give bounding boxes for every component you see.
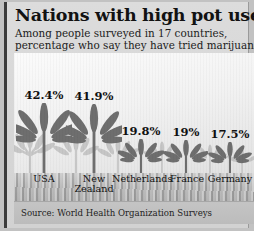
infographic: Nations with high pot use Among people s… (0, 0, 254, 231)
leaf-icon-new-zealand (66, 104, 122, 173)
subtitle-line-1: Among people surveyed in 17 countries, (15, 28, 247, 40)
x-label-new-zealand-line2: Zealand (66, 184, 122, 194)
value-label-new-zealand: 41.9% (66, 89, 122, 103)
value-label-usa: 42.4% (16, 88, 72, 102)
chart-area: 42.4% (14, 53, 254, 203)
x-label-netherlands-text: Netherlands (112, 174, 170, 184)
data-column-netherlands: 19.8% (118, 124, 164, 173)
data-column-france: 19% (164, 125, 208, 173)
value-label-netherlands: 19.8% (118, 124, 164, 138)
subtitle: Among people surveyed in 17 countries, p… (15, 28, 247, 51)
x-label-usa-text: USA (16, 174, 72, 184)
x-label-germany: Germany (206, 174, 254, 184)
header: Nations with high pot use Among people s… (15, 5, 247, 51)
x-label-france: France (166, 174, 208, 184)
data-leaves: 42.4% (14, 53, 254, 173)
data-column-new-zealand: 41.9% (66, 89, 122, 173)
leaf-icon-usa (16, 103, 72, 173)
data-column-germany: 17.5% (208, 127, 252, 173)
x-axis-labels: USA New Zealand Netherlands France Germa… (14, 173, 254, 201)
leaf-icon-germany (208, 142, 252, 173)
value-label-germany: 17.5% (208, 127, 252, 141)
leaf-icon-netherlands (118, 139, 164, 173)
leaf-icon-france (164, 140, 208, 173)
x-label-france-text: France (166, 174, 208, 184)
x-label-germany-text: Germany (206, 174, 254, 184)
x-label-usa: USA (16, 174, 72, 184)
source-text: Source: World Health Organization Survey… (21, 208, 212, 218)
x-label-netherlands: Netherlands (112, 174, 170, 184)
subtitle-line-2: percentage who say they have tried marij… (15, 40, 247, 52)
figure-frame: Nations with high pot use Among people s… (4, 2, 249, 228)
data-column-usa: 42.4% (16, 88, 72, 173)
page-title: Nations with high pot use (15, 5, 247, 26)
source-bar: Source: World Health Organization Survey… (14, 201, 254, 224)
value-label-france: 19% (164, 125, 208, 139)
